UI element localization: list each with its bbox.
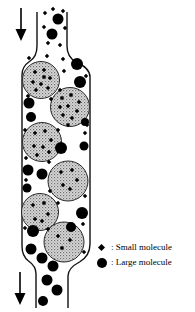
large-molecule xyxy=(37,169,48,180)
gel-bead xyxy=(48,161,88,201)
column-outline-right xyxy=(67,12,90,308)
gel-bead xyxy=(23,62,60,99)
large-molecule xyxy=(23,184,32,193)
large-molecule xyxy=(80,142,89,151)
large-molecule xyxy=(71,58,83,70)
small-molecule xyxy=(45,54,49,58)
large-molecule xyxy=(52,285,63,296)
gel-bead xyxy=(23,123,62,162)
small-molecule xyxy=(24,178,28,182)
small-molecule xyxy=(58,43,62,47)
legend-label-large-molecule: : Large molecule xyxy=(111,256,172,269)
legend-item-large-molecule: : Large molecule xyxy=(96,256,172,269)
small-molecule xyxy=(46,41,50,45)
small-molecule xyxy=(42,25,46,29)
small-molecule xyxy=(23,226,27,230)
large-molecule xyxy=(27,225,39,237)
small-molecule xyxy=(27,56,31,60)
small-molecule xyxy=(61,9,65,13)
legend: : Small molecule : Large molecule xyxy=(96,241,172,269)
small-molecule xyxy=(83,131,87,135)
small-molecule-diamond-icon xyxy=(96,245,107,250)
outlet-flow-arrow-head xyxy=(15,293,26,305)
large-molecule xyxy=(47,29,58,40)
small-molecule xyxy=(62,69,66,73)
large-molecule xyxy=(24,98,35,109)
large-molecule xyxy=(76,207,88,219)
large-molecule xyxy=(48,261,59,272)
small-molecule xyxy=(24,156,28,160)
small-molecule xyxy=(51,7,55,11)
large-molecule xyxy=(42,275,53,286)
large-molecule xyxy=(37,253,48,264)
large-molecule xyxy=(38,296,48,306)
large-molecule-circle-icon xyxy=(96,258,107,268)
small-molecule xyxy=(81,222,85,226)
large-molecule xyxy=(53,14,64,25)
small-molecule xyxy=(84,74,88,78)
legend-item-small-molecule: : Small molecule xyxy=(96,241,172,254)
small-molecule xyxy=(43,11,47,15)
gel-bead xyxy=(44,222,84,262)
small-molecule xyxy=(61,57,65,61)
large-molecule xyxy=(74,76,86,88)
large-molecule xyxy=(66,222,76,232)
large-molecule xyxy=(26,112,36,122)
flow-arrows-layer xyxy=(15,8,27,305)
large-molecule xyxy=(26,244,37,255)
large-molecule xyxy=(23,165,34,176)
inlet-flow-arrow-head xyxy=(16,29,27,41)
legend-label-small-molecule: : Small molecule xyxy=(111,241,172,254)
size-exclusion-column-diagram: : Small molecule : Large molecule xyxy=(0,0,195,312)
large-molecule xyxy=(55,142,67,154)
